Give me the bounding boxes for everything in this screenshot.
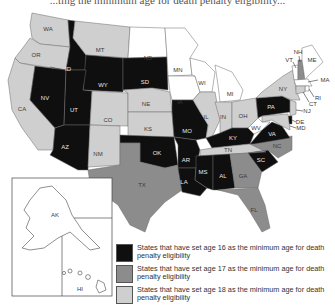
svg-text:HI: HI <box>77 286 83 292</box>
svg-text:NJ: NJ <box>303 108 310 114</box>
svg-text:AR: AR <box>182 157 191 163</box>
svg-text:OK: OK <box>153 150 162 156</box>
state-nd[interactable] <box>128 27 167 58</box>
state-fl[interactable] <box>218 188 270 232</box>
legend-label-age18: States that have set age 18 as the minim… <box>137 286 331 302</box>
state-ma[interactable] <box>294 79 312 86</box>
svg-text:WA: WA <box>43 26 52 32</box>
svg-text:MO: MO <box>182 128 192 134</box>
svg-text:OR: OR <box>32 52 42 58</box>
svg-text:MN: MN <box>173 67 182 73</box>
svg-text:UT: UT <box>70 107 78 113</box>
svg-text:ND: ND <box>144 55 153 61</box>
svg-text:NM: NM <box>93 151 102 157</box>
svg-text:SC: SC <box>257 157 266 163</box>
svg-text:PA: PA <box>267 104 275 110</box>
svg-text:WV: WV <box>251 125 261 131</box>
state-ri[interactable] <box>305 86 309 91</box>
svg-text:TN: TN <box>224 147 232 153</box>
svg-text:AZ: AZ <box>61 144 69 150</box>
svg-text:ID: ID <box>65 66 72 72</box>
legend-item-age16: States that have set age 16 as the minim… <box>116 244 331 265</box>
svg-text:IA: IA <box>177 99 183 105</box>
legend-item-age17: States that have set age 17 as the minim… <box>116 265 331 286</box>
legend-item-age18: States that have set age 18 as the minim… <box>116 286 331 307</box>
svg-text:AK: AK <box>51 212 59 218</box>
svg-text:GA: GA <box>239 173 248 179</box>
legend-swatch-age18 <box>116 286 133 304</box>
svg-text:NC: NC <box>273 143 282 149</box>
svg-text:IL: IL <box>203 114 209 120</box>
svg-text:VA: VA <box>268 131 276 137</box>
svg-text:CA: CA <box>18 106 26 112</box>
svg-text:MT: MT <box>96 47 105 53</box>
svg-text:NV: NV <box>41 95 49 101</box>
svg-text:FL: FL <box>250 207 258 213</box>
svg-text:MD: MD <box>296 125 306 131</box>
svg-text:MI: MI <box>227 91 234 97</box>
svg-text:NY: NY <box>279 86 287 92</box>
svg-text:VT: VT <box>285 57 293 63</box>
svg-text:SD: SD <box>141 79 150 85</box>
legend: States that have set age 16 as the minim… <box>116 244 331 307</box>
state-nm[interactable] <box>88 125 120 167</box>
svg-text:KY: KY <box>229 135 237 141</box>
state-ks[interactable] <box>128 112 174 137</box>
svg-text:LA: LA <box>180 179 187 185</box>
legend-swatch-age16 <box>116 244 133 262</box>
svg-text:NH: NH <box>294 49 303 55</box>
state-ia[interactable] <box>168 76 200 100</box>
svg-text:CT: CT <box>309 101 317 107</box>
svg-text:CO: CO <box>104 117 113 123</box>
legend-swatch-age17 <box>116 265 133 283</box>
state-az[interactable] <box>50 125 90 170</box>
state-sd[interactable] <box>123 57 168 90</box>
svg-text:WY: WY <box>98 82 108 88</box>
svg-text:AL: AL <box>219 173 227 179</box>
svg-text:MS: MS <box>199 169 208 175</box>
svg-text:NE: NE <box>142 101 150 107</box>
legend-label-age16: States that have set age 16 as the minim… <box>137 244 331 260</box>
svg-text:TX: TX <box>138 182 146 188</box>
svg-text:OH: OH <box>239 113 248 119</box>
svg-text:IN: IN <box>220 114 226 120</box>
svg-text:MA: MA <box>321 77 330 83</box>
legend-label-age17: States that have set age 17 as the minim… <box>137 265 331 281</box>
svg-text:WI: WI <box>198 80 206 86</box>
svg-text:KS: KS <box>144 126 152 132</box>
svg-text:ME: ME <box>308 57 317 63</box>
state-nj[interactable] <box>290 100 296 116</box>
